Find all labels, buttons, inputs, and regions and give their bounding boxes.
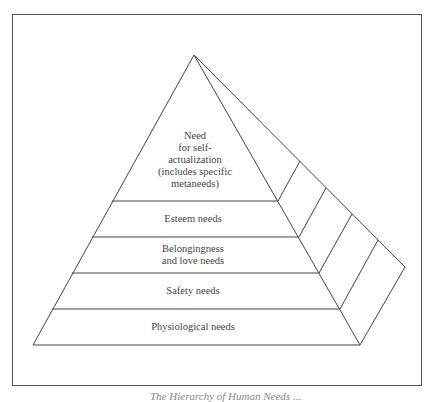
pyramid-front: [33, 55, 360, 345]
level-belongingness: Belongingness and love needs: [162, 243, 224, 267]
level-safety: Safety needs: [166, 285, 219, 297]
level-self-actualization: Need for self- actualization (includes s…: [158, 130, 232, 190]
level-esteem: Esteem needs: [164, 213, 221, 225]
figure-caption: The Hierarchy of Human Needs ...: [150, 390, 301, 402]
level-physiological: Physiological needs: [151, 321, 235, 333]
pyramid-side: [194, 55, 405, 345]
